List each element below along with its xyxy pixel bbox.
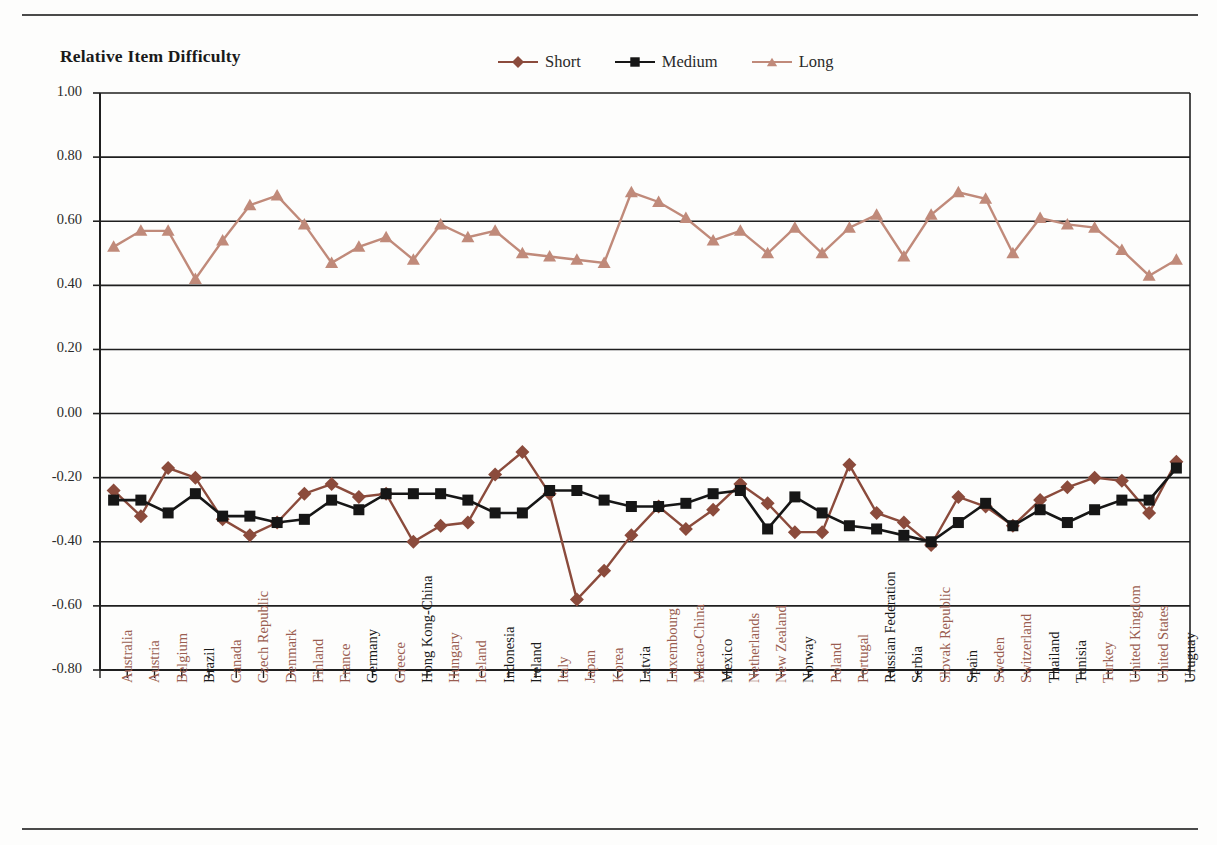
x-axis-tick-label: Italy (555, 656, 572, 683)
data-point-marker (161, 461, 175, 475)
data-point-marker (107, 240, 120, 252)
x-axis-tick-label: Poland (828, 643, 845, 683)
x-axis-tick-label: Latvia (637, 646, 654, 683)
x-axis-tick-label: Greece (392, 642, 409, 683)
data-point-marker (1035, 504, 1046, 515)
data-point-marker (871, 523, 882, 534)
x-axis-tick-label: Turkey (1100, 642, 1117, 683)
x-axis-tick-label: Denmark (283, 629, 300, 683)
data-point-marker (817, 507, 828, 518)
data-point-marker (844, 520, 855, 531)
data-point-marker (1007, 520, 1018, 531)
y-axis-tick-label: 0.40 (30, 275, 82, 292)
x-axis-tick-label: Hungary (446, 632, 463, 683)
data-point-marker (272, 517, 283, 528)
x-axis-tick-label: Germany (364, 629, 381, 683)
y-axis-tick-label: -0.40 (30, 532, 82, 549)
data-point-marker (544, 485, 555, 496)
y-axis-tick-label: 0.20 (30, 339, 82, 356)
data-point-marker (815, 525, 829, 539)
data-point-marker (243, 528, 257, 542)
x-axis-tick-label: France (337, 644, 354, 683)
data-point-marker (325, 477, 339, 491)
x-axis-tick-label: Slovak Republic (937, 587, 954, 683)
data-point-marker (461, 516, 475, 530)
x-axis-tick-label: Portugal (855, 634, 872, 683)
x-axis-tick-label: Uruguay (1182, 632, 1199, 683)
data-point-marker (842, 458, 856, 472)
data-point-marker (163, 507, 174, 518)
data-point-marker (1060, 480, 1074, 494)
data-point-marker (217, 511, 228, 522)
x-axis-tick-label: Norway (800, 636, 817, 683)
data-point-marker (1144, 495, 1155, 506)
data-point-marker (517, 507, 528, 518)
x-axis-tick-label: Mexico (719, 639, 736, 683)
x-axis-tick-label: Switzerland (1018, 614, 1035, 683)
data-point-marker (1171, 463, 1182, 474)
data-point-marker (788, 221, 801, 233)
data-point-marker (352, 490, 366, 504)
x-axis-tick-label: Russian Federation (882, 571, 899, 683)
x-axis-tick-label: United Kingdom (1127, 585, 1144, 683)
data-point-marker (188, 471, 202, 485)
data-point-marker (679, 212, 692, 224)
series-short (107, 445, 1184, 606)
data-point-marker (434, 519, 448, 533)
x-axis-tick-label: Luxembourg (664, 608, 681, 683)
x-axis-tick-label: Ireland (528, 642, 545, 683)
x-axis-tick-label: United States (1155, 605, 1172, 683)
data-point-marker (898, 530, 909, 541)
x-axis-tick-label: Austria (146, 640, 163, 683)
x-axis-tick-label: Netherlands (746, 613, 763, 683)
data-point-marker (1116, 495, 1127, 506)
x-axis-tick-label: Hong Kong-China (419, 575, 436, 683)
data-point-marker (734, 224, 747, 236)
series-medium (108, 463, 1182, 548)
y-axis-tick-label: 0.60 (30, 211, 82, 228)
data-point-marker (762, 523, 773, 534)
data-point-marker (299, 514, 310, 525)
y-axis-tick-label: 0.00 (30, 404, 82, 421)
data-point-marker (489, 224, 502, 236)
data-point-marker (406, 535, 420, 549)
data-point-marker (870, 208, 883, 220)
x-axis-tick-label: New Zealand (773, 605, 790, 683)
data-point-marker (571, 485, 582, 496)
data-point-marker (1062, 517, 1073, 528)
figure-canvas: Relative Item Difficulty ShortMediumLong… (0, 0, 1217, 845)
data-point-marker (680, 498, 691, 509)
x-axis-tick-label: Finland (310, 639, 327, 683)
data-point-marker (599, 495, 610, 506)
data-point-marker (653, 501, 664, 512)
data-point-marker (244, 511, 255, 522)
data-point-marker (980, 498, 991, 509)
x-axis-tick-label: Korea (610, 648, 627, 683)
data-point-marker (708, 488, 719, 499)
y-axis-tick-label: 1.00 (30, 83, 82, 100)
x-axis-tick-label: Canada (228, 640, 245, 683)
series-line-long (114, 192, 1177, 279)
data-point-marker (381, 488, 392, 499)
x-axis-tick-label: Brazil (201, 648, 218, 683)
data-point-marker (190, 488, 201, 499)
data-point-marker (380, 231, 393, 243)
data-point-marker (926, 536, 937, 547)
x-axis-tick-label: Australia (119, 630, 136, 683)
x-axis-tick-label: Macao-China (691, 604, 708, 683)
plot-area: 1.000.800.600.400.200.00-0.20-0.40-0.60-… (0, 0, 1217, 845)
data-point-marker (626, 501, 637, 512)
x-axis-tick-label: Iceland (473, 640, 490, 683)
x-axis-tick-label: Japan (582, 650, 599, 683)
data-point-marker (870, 506, 884, 520)
x-axis-tick-label: Serbia (909, 646, 926, 683)
data-point-marker (1170, 253, 1183, 265)
y-axis-tick-label: -0.20 (30, 468, 82, 485)
data-point-marker (789, 491, 800, 502)
data-point-marker (952, 186, 965, 198)
y-axis-tick-label: -0.80 (30, 660, 82, 677)
data-point-marker (625, 186, 638, 198)
data-point-marker (843, 221, 856, 233)
data-point-marker (1088, 471, 1102, 485)
data-point-marker (953, 517, 964, 528)
